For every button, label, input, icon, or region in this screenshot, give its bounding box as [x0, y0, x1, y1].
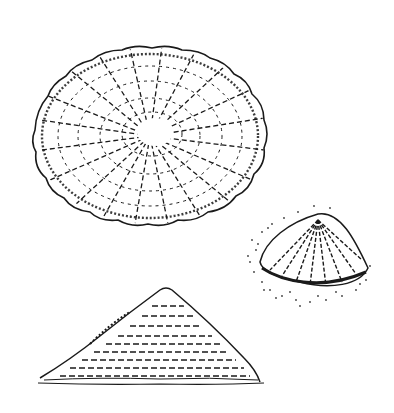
shell-oblique-view	[247, 205, 371, 307]
shell-top-view	[33, 46, 267, 225]
limpet-illustration	[0, 0, 394, 413]
shell-side-view	[38, 288, 264, 384]
